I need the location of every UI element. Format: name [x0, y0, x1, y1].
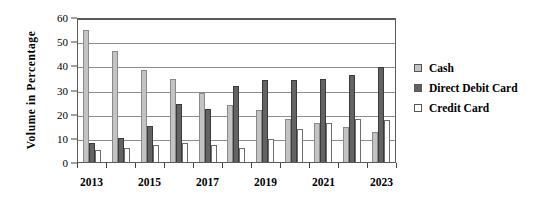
- bar-group: [314, 19, 332, 162]
- bar-group: [112, 19, 130, 162]
- bar-group: [199, 19, 217, 162]
- x-tick-label: 2015: [138, 176, 161, 188]
- bar-credit: [355, 119, 361, 163]
- bar-group: [256, 19, 274, 162]
- x-tick-mark: [396, 163, 397, 168]
- bar-group: [285, 19, 303, 162]
- legend-label: Cash: [429, 62, 454, 74]
- legend-swatch-cash-icon: [414, 64, 422, 72]
- chart-legend: CashDirect Debit CardCredit Card: [414, 62, 518, 114]
- bar-credit: [384, 120, 390, 162]
- x-tick-mark: [164, 163, 165, 168]
- y-tick-label: 60: [57, 12, 68, 24]
- y-axis-ticks: 0102030405060: [0, 0, 77, 205]
- y-tick-label: 30: [57, 85, 68, 97]
- y-tick-label: 50: [57, 36, 68, 48]
- bar-credit: [153, 145, 159, 162]
- x-tick-mark: [251, 163, 252, 168]
- x-tick-label: 2013: [80, 176, 103, 188]
- y-tick-label: 20: [57, 109, 68, 121]
- x-tick-label: 2021: [312, 176, 335, 188]
- x-tick-mark: [309, 163, 310, 168]
- legend-item: Credit Card: [414, 102, 518, 114]
- x-tick-mark: [222, 163, 223, 168]
- x-tick-mark: [135, 163, 136, 168]
- bar-group: [372, 19, 390, 162]
- x-axis-ticks: 201320152017201920212023: [77, 163, 396, 203]
- legend-item: Direct Debit Card: [414, 82, 518, 94]
- x-tick-label: 2017: [196, 176, 219, 188]
- bar-chart-figure: Volume in Percentage 0102030405060 20132…: [0, 0, 560, 205]
- bar-credit: [297, 129, 303, 162]
- x-tick-mark: [77, 163, 78, 168]
- bar-credit: [95, 150, 101, 162]
- x-tick-label: 2023: [370, 176, 393, 188]
- x-tick-mark: [106, 163, 107, 168]
- legend-item: Cash: [414, 62, 518, 74]
- y-tick-label: 10: [57, 133, 68, 145]
- plot-area: [77, 18, 396, 163]
- x-tick-label: 2019: [254, 176, 277, 188]
- legend-label: Direct Debit Card: [429, 82, 518, 94]
- legend-swatch-debit-icon: [414, 84, 422, 92]
- legend-swatch-credit-icon: [414, 104, 422, 112]
- bar-credit: [326, 123, 332, 162]
- bar-credit: [239, 148, 245, 163]
- bar-credit: [268, 139, 274, 162]
- x-tick-mark: [280, 163, 281, 168]
- legend-label: Credit Card: [429, 102, 489, 114]
- bar-credit: [124, 148, 130, 163]
- bar-groups: [78, 19, 395, 162]
- y-tick-label: 0: [63, 157, 69, 169]
- x-tick-mark: [338, 163, 339, 168]
- bar-group: [343, 19, 361, 162]
- x-tick-mark: [193, 163, 194, 168]
- bar-credit: [211, 145, 217, 162]
- bar-group: [141, 19, 159, 162]
- bar-group: [227, 19, 245, 162]
- bar-credit: [182, 143, 188, 162]
- y-tick-label: 40: [57, 60, 68, 72]
- x-tick-mark: [367, 163, 368, 168]
- bar-group: [170, 19, 188, 162]
- bar-group: [83, 19, 101, 162]
